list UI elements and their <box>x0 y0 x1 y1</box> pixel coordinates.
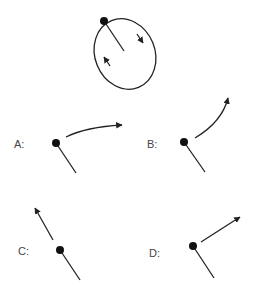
bob <box>100 17 108 25</box>
rod-a <box>56 143 76 173</box>
trajectory-arrow-c-icon <box>35 208 53 240</box>
bob-a <box>52 139 60 147</box>
diagram-canvas <box>0 0 255 294</box>
rod <box>104 21 124 51</box>
rod-c <box>60 250 80 280</box>
option-a-label: A: <box>14 139 24 150</box>
option-d[interactable] <box>189 217 240 278</box>
rod-b <box>184 142 205 172</box>
bob-c <box>56 246 64 254</box>
bob-d <box>189 242 197 250</box>
ellipse-path <box>84 9 167 98</box>
direction-arrow-right-icon <box>137 34 143 43</box>
option-b-label: B: <box>147 139 157 150</box>
direction-arrow-left-icon <box>104 57 110 66</box>
rod-d <box>193 246 214 278</box>
option-c-label: C: <box>18 246 29 257</box>
option-b[interactable] <box>180 98 228 172</box>
trajectory-arrow-a-icon <box>66 125 122 137</box>
bob-b <box>180 138 188 146</box>
option-c[interactable] <box>35 208 80 280</box>
trajectory-arrow-b-icon <box>195 98 228 138</box>
top-figure <box>84 9 167 98</box>
option-d-label: D: <box>149 248 160 259</box>
option-a[interactable] <box>52 125 122 173</box>
trajectory-arrow-d-icon <box>201 217 240 242</box>
